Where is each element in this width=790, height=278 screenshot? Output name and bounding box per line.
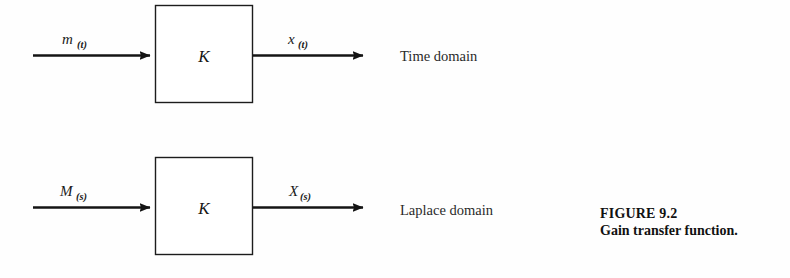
figure-caption-description: Gain transfer function. (600, 222, 788, 239)
laplace-domain-diagram: K M (s) X (s) Laplace domain (33, 158, 494, 255)
input-signal-label-time: m (62, 31, 73, 47)
output-signal-subscript-time: (t) (298, 39, 308, 51)
gain-block-label-laplace: K (197, 199, 211, 218)
domain-label-time: Time domain (400, 48, 478, 64)
domain-label-laplace: Laplace domain (400, 202, 494, 218)
output-signal-label-laplace: X (288, 183, 299, 199)
figure-caption: FIGURE 9.2 Gain transfer function. (600, 205, 788, 239)
input-signal-label-laplace: M (59, 183, 74, 199)
output-signal-label-time: x (287, 31, 295, 47)
figure-container: K m (t) x (t) Time domain K M (s) X (s) … (0, 0, 790, 278)
output-signal-subscript-laplace: (s) (300, 191, 311, 203)
input-signal-subscript-time: (t) (77, 39, 87, 51)
input-signal-subscript-laplace: (s) (76, 191, 87, 203)
figure-caption-title: FIGURE 9.2 (600, 205, 788, 222)
gain-block-label-time: K (197, 47, 211, 66)
time-domain-diagram: K m (t) x (t) Time domain (33, 6, 478, 103)
